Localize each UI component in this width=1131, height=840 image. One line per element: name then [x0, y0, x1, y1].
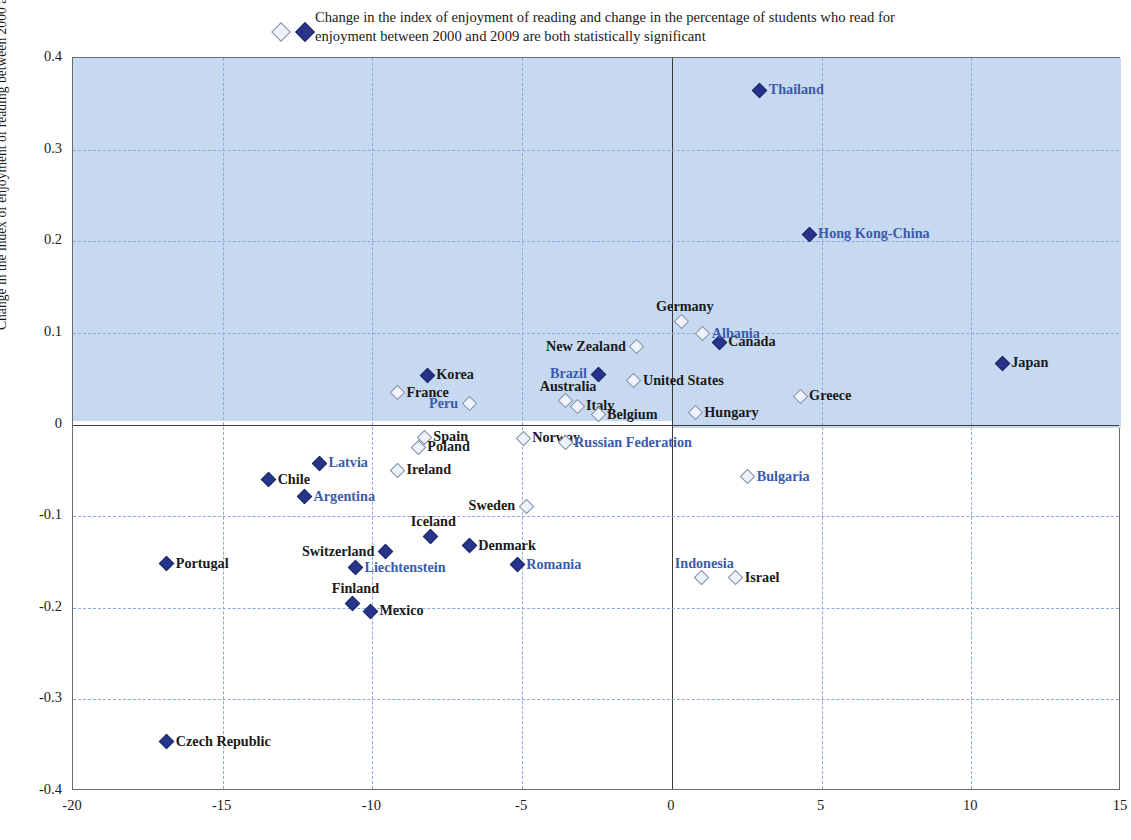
data-point-label: Iceland [411, 513, 456, 530]
y-tick-label: -0.1 [0, 506, 62, 523]
hollow-diamond-icon [390, 463, 406, 479]
data-point-marker[interactable] [462, 538, 475, 551]
data-point-label: Thailand [769, 81, 824, 98]
data-point-marker[interactable] [378, 544, 391, 557]
data-point-marker[interactable] [297, 489, 310, 502]
x-tick-label: -15 [192, 797, 252, 814]
data-point-label: Argentina [314, 487, 375, 504]
gridline-vertical [971, 58, 972, 789]
data-point-marker[interactable] [423, 529, 436, 542]
data-point-marker[interactable] [312, 456, 325, 469]
x-tick-label: -20 [42, 797, 102, 814]
data-point-marker[interactable] [159, 734, 172, 747]
x-tick-label: -10 [341, 797, 401, 814]
data-point-marker[interactable] [420, 368, 433, 381]
data-point-label: United States [643, 371, 724, 388]
data-point-marker[interactable] [695, 326, 708, 339]
data-point-marker[interactable] [793, 389, 806, 402]
legend-label: Change in the index of enjoyment of read… [315, 8, 960, 46]
quadrant-shade-top-right [673, 58, 1121, 428]
gridline-horizontal [73, 699, 1119, 700]
gridline-vertical [223, 58, 224, 789]
filled-diamond-icon [363, 604, 379, 620]
data-point-label: Portugal [176, 554, 229, 571]
data-point-marker[interactable] [363, 604, 376, 617]
data-point-marker[interactable] [740, 469, 753, 482]
y-tick-label: 0 [0, 415, 62, 432]
gridline-horizontal [73, 608, 1119, 609]
data-point-marker[interactable] [519, 499, 532, 512]
filled-diamond-icon [298, 25, 312, 39]
data-point-marker[interactable] [570, 399, 583, 412]
filled-diamond-icon [159, 556, 175, 572]
data-point-label: Mexico [379, 602, 423, 619]
y-tick-label: 0.3 [0, 140, 62, 157]
filled-diamond-icon [752, 82, 768, 98]
data-point-marker[interactable] [345, 596, 358, 609]
hollow-diamond-icon [515, 431, 531, 447]
data-point-label: Greece [809, 387, 851, 404]
gridline-horizontal [73, 241, 1119, 242]
data-point-marker[interactable] [411, 440, 424, 453]
hollow-diamond-icon [590, 407, 606, 423]
data-point-marker[interactable] [694, 570, 707, 583]
data-point-marker[interactable] [629, 339, 642, 352]
data-point-marker[interactable] [688, 405, 701, 418]
chart-legend: Change in the index of enjoyment of read… [268, 8, 968, 50]
y-tick-label: 0.4 [0, 48, 62, 65]
hollow-diamond-icon [694, 570, 710, 586]
data-point-label: Bulgaria [757, 467, 810, 484]
hollow-diamond-icon [695, 326, 711, 342]
gridline-vertical [822, 58, 823, 789]
filled-diamond-icon [423, 529, 439, 545]
gridline-vertical [522, 58, 523, 789]
data-point-marker[interactable] [462, 396, 475, 409]
data-point-marker[interactable] [752, 83, 765, 96]
data-point-marker[interactable] [626, 373, 639, 386]
data-point-marker[interactable] [510, 557, 523, 570]
data-point-marker[interactable] [558, 435, 571, 448]
data-point-marker[interactable] [516, 431, 529, 444]
hollow-diamond-icon [569, 398, 585, 414]
hollow-diamond-icon [518, 498, 534, 514]
data-point-marker[interactable] [674, 314, 687, 327]
data-point-label: Germany [656, 298, 714, 315]
x-tick-label: 10 [940, 797, 1000, 814]
data-point-label: Romania [526, 555, 581, 572]
filled-diamond-icon [994, 355, 1010, 371]
data-point-label: Hong Kong-China [818, 225, 930, 242]
y-tick-label: -0.3 [0, 689, 62, 706]
y-tick-label: 0.2 [0, 231, 62, 248]
y-tick-label: -0.4 [0, 781, 62, 798]
data-point-marker[interactable] [390, 463, 403, 476]
data-point-marker[interactable] [159, 556, 172, 569]
data-point-label: Switzerland [302, 542, 375, 559]
hollow-diamond-icon [274, 25, 288, 39]
filled-diamond-icon [509, 557, 525, 573]
x-tick-label: -5 [491, 797, 551, 814]
data-point-marker[interactable] [995, 356, 1008, 369]
data-point-label: Peru [429, 394, 458, 411]
filled-diamond-icon [297, 489, 313, 505]
x-tick-label: 15 [1090, 797, 1131, 814]
data-point-label: Chile [278, 470, 310, 487]
data-point-marker[interactable] [802, 227, 815, 240]
y-tick-label: -0.2 [0, 598, 62, 615]
data-point-label: Liechtenstein [364, 558, 445, 575]
zero-line-vertical [672, 58, 674, 789]
hollow-diamond-icon [629, 339, 645, 355]
hollow-diamond-icon [792, 388, 808, 404]
filled-diamond-icon [420, 367, 436, 383]
filled-diamond-icon [348, 560, 364, 576]
data-point-marker[interactable] [591, 407, 604, 420]
data-point-label: Indonesia [675, 555, 734, 572]
gridline-horizontal [73, 516, 1119, 517]
data-point-marker[interactable] [728, 570, 741, 583]
data-point-label: Latvia [329, 454, 368, 471]
filled-diamond-icon [159, 734, 175, 750]
data-point-marker[interactable] [390, 385, 403, 398]
hollow-diamond-icon [740, 469, 756, 485]
data-point-marker[interactable] [348, 560, 361, 573]
data-point-marker[interactable] [261, 472, 274, 485]
data-point-label: Belgium [607, 405, 657, 422]
